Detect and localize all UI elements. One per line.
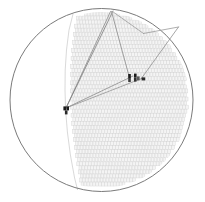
detector-cell xyxy=(121,150,124,154)
detector-cell xyxy=(110,174,113,178)
detector-cell xyxy=(94,89,97,93)
detector-cell xyxy=(145,113,148,117)
detector-cell xyxy=(98,20,101,24)
detector-cell xyxy=(156,150,159,154)
detector-cell xyxy=(100,105,103,109)
detector-cell xyxy=(179,81,182,85)
detector-cell xyxy=(85,16,88,20)
detector-cell xyxy=(147,81,150,85)
detector-cell xyxy=(170,53,173,57)
detector-cell xyxy=(78,109,81,113)
detector-cell xyxy=(140,85,143,89)
detector-cell xyxy=(134,121,137,125)
detector-cell xyxy=(108,182,111,186)
detector-cell xyxy=(80,113,83,117)
detector-cell xyxy=(105,154,108,158)
detector-cell xyxy=(154,158,157,162)
detector-cell xyxy=(125,85,128,89)
detector-cell xyxy=(109,57,112,61)
detector-cell xyxy=(108,40,111,44)
detector-cell xyxy=(175,121,178,125)
detector-cell xyxy=(114,154,117,158)
detector-cell xyxy=(101,121,104,125)
detector-cell xyxy=(103,162,106,166)
detector-cell xyxy=(83,174,86,178)
detector-cell xyxy=(129,32,132,36)
detector-cell xyxy=(106,166,109,170)
detector-cell xyxy=(158,117,161,121)
detector-cell xyxy=(132,44,135,48)
detector-cell xyxy=(145,158,148,162)
detector-cell xyxy=(167,129,170,133)
detector-cell xyxy=(99,154,102,158)
detector-cell xyxy=(115,32,118,36)
detector-cell xyxy=(86,48,89,52)
detector-cell xyxy=(151,77,154,81)
detector-cell xyxy=(118,20,121,24)
detector-cell xyxy=(142,48,145,52)
detector-cell xyxy=(147,138,150,142)
detector-cell xyxy=(103,105,106,109)
detector-cell xyxy=(81,93,84,97)
detector-cell xyxy=(143,61,146,65)
detector-cell xyxy=(75,109,78,113)
detector-cell xyxy=(73,44,76,48)
detector-cell xyxy=(121,113,124,117)
detector-cell xyxy=(118,65,121,69)
detector-cell xyxy=(131,142,134,146)
detector-cell xyxy=(130,105,133,109)
detector-cell xyxy=(83,57,86,61)
detector-cell xyxy=(172,69,175,73)
detector-cell xyxy=(150,73,153,77)
detector-cell xyxy=(96,109,99,113)
detector-cell xyxy=(136,20,139,24)
detector-cell xyxy=(123,40,126,44)
detector-cell xyxy=(85,89,88,93)
detector-cell xyxy=(173,142,176,146)
detector-cell xyxy=(138,125,141,129)
detector-cell xyxy=(178,134,181,138)
detector-cell xyxy=(122,174,125,178)
detector-cell xyxy=(140,93,143,97)
detector-cell xyxy=(73,53,76,57)
detector-cell xyxy=(84,154,87,158)
detector-cell xyxy=(109,97,112,101)
detector-cell xyxy=(102,53,105,57)
detector-cell xyxy=(89,174,92,178)
detector-cell xyxy=(111,129,114,133)
detector-cell xyxy=(122,170,125,174)
detector-cell xyxy=(77,134,80,138)
detector-cell xyxy=(146,101,149,105)
detector-cell xyxy=(72,77,75,81)
detector-cell xyxy=(183,113,186,117)
detector-cell xyxy=(104,77,107,81)
detector-cell xyxy=(117,53,120,57)
detector-cell xyxy=(121,57,124,61)
detector-cell xyxy=(169,77,172,81)
detector-cell xyxy=(91,81,94,85)
detector-cell xyxy=(85,44,88,48)
detector-cell xyxy=(156,125,159,129)
detector-cell xyxy=(127,105,130,109)
detector-cell xyxy=(120,166,123,170)
detector-cell xyxy=(150,81,153,85)
detector-cell xyxy=(106,65,109,69)
detector-cell xyxy=(182,73,185,77)
detector-cell xyxy=(98,174,101,178)
detector-cell xyxy=(96,170,99,174)
detector-cell xyxy=(160,158,163,162)
detector-cell xyxy=(180,97,183,101)
detector-cell xyxy=(75,40,78,44)
detector-cell xyxy=(102,182,105,186)
detector-cell xyxy=(132,138,135,142)
detector-cell xyxy=(80,48,83,52)
detector-cell xyxy=(129,166,132,170)
detector-cell xyxy=(81,182,84,186)
detector-cell xyxy=(133,57,136,61)
detector-cell xyxy=(85,105,88,109)
detector-cell xyxy=(96,28,99,32)
detector-cell xyxy=(100,73,103,77)
detector-cell xyxy=(90,28,93,32)
detector-cell xyxy=(82,117,85,121)
detector-cell xyxy=(145,57,148,61)
